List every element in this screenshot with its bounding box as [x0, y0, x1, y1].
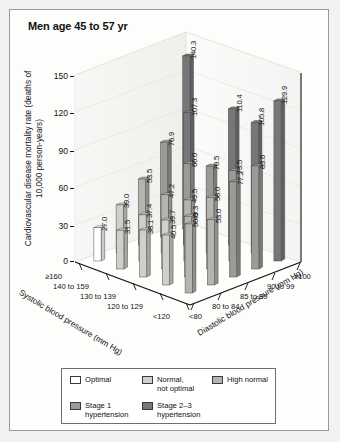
bar-side-face — [124, 228, 128, 269]
legend-item-stage1[interactable]: Stage 1hypertension — [70, 401, 142, 420]
legend-label-stage1: Stage 1hypertension — [85, 401, 128, 420]
legend-item-normal-not-optimal[interactable]: Normal,not optimal — [142, 375, 212, 394]
systolic-label-4: <120 — [153, 312, 170, 321]
bar[interactable] — [274, 99, 285, 261]
systolic-label-1: 140 to 159 — [53, 282, 89, 291]
y-tick-60: 60 — [42, 183, 68, 193]
bar-value-label: 110.4 — [235, 95, 244, 112]
systolic-label-3: 120 to 129 — [107, 302, 143, 311]
bar-value-label: 31.5 — [123, 220, 132, 234]
figure-panel: Men age 45 to 57 yr Cardiovascular disea… — [0, 0, 340, 442]
legend-label-normal-not-optimal: Normal,not optimal — [157, 375, 194, 394]
bar-value-label: 56.0 — [191, 213, 200, 227]
bar[interactable] — [117, 228, 128, 269]
bar-front-face — [207, 220, 214, 285]
bar-value-label: 38.1 — [146, 220, 155, 234]
bar-front-face — [162, 235, 169, 285]
legend-label-optimal: Optimal — [85, 375, 111, 384]
y-tickmark-30 — [70, 226, 74, 227]
bar-front-face — [140, 230, 147, 277]
y-tick-0: 0 — [42, 256, 68, 266]
bar-side-face — [192, 222, 196, 293]
bar[interactable] — [185, 222, 196, 293]
legend-swatch-normal-not-optimal — [142, 376, 153, 384]
bar-front-face — [274, 101, 281, 261]
bar-value-label: 47.2 — [167, 184, 176, 198]
bar-value-label: 53.0 — [214, 209, 223, 223]
legend-label-high-normal: High normal — [227, 375, 268, 384]
bar[interactable] — [207, 218, 218, 285]
bar-value-label: 39.0 — [122, 194, 131, 208]
bar-value-label: 66.0 — [190, 153, 199, 167]
bar-value-label: 140.3 — [189, 41, 198, 59]
bar-value-label: 27.0 — [100, 217, 109, 231]
bar-side-face — [147, 228, 151, 277]
bar-front-face — [117, 230, 124, 269]
y-tick-90: 90 — [42, 146, 68, 156]
bar-value-label: 107.3 — [190, 98, 199, 116]
bar-value-label: 105.8 — [257, 108, 266, 126]
bar-side-face — [215, 218, 219, 285]
legend-swatch-optimal — [70, 376, 81, 384]
bar-value-label: 76.9 — [167, 132, 176, 146]
bar[interactable] — [252, 164, 263, 269]
legend-item-optimal[interactable]: Optimal — [70, 375, 142, 384]
y-tickmark-0 — [70, 261, 74, 262]
bar[interactable] — [230, 180, 241, 277]
legend: Optimal Normal,not optimal High normal S… — [61, 368, 276, 424]
y-tickmark-90 — [70, 151, 74, 152]
y-tick-30: 30 — [42, 221, 68, 231]
systolic-label-0: ≥160 — [45, 272, 62, 281]
bar-value-label: 40.5 — [169, 225, 178, 239]
bar-value-label: 49.5 — [190, 189, 199, 203]
legend-item-high-normal[interactable]: High normal — [212, 375, 268, 384]
bar-value-label: 39.7 — [168, 210, 177, 224]
bar-value-label: 58.0 — [213, 187, 222, 201]
bar[interactable] — [140, 228, 151, 277]
bar-value-label: 77.2 — [236, 171, 245, 185]
bar-side-face — [170, 233, 174, 285]
bar-value-label: 37.4 — [145, 204, 154, 218]
legend-swatch-stage23 — [142, 402, 153, 410]
bar-value-label: 53.5 — [145, 169, 154, 183]
y-tick-120: 120 — [42, 108, 68, 118]
bar-value-label: 129.9 — [280, 86, 289, 104]
bar-side-face — [237, 180, 241, 277]
bar-front-face — [230, 182, 237, 277]
legend-label-stage23: Stage 2–3hypertension — [157, 401, 200, 420]
legend-row-2: Stage 1hypertension Stage 2–3hypertensio… — [70, 401, 268, 420]
y-tickmark-60 — [70, 188, 74, 189]
bar[interactable] — [162, 233, 173, 285]
legend-swatch-high-normal — [212, 376, 223, 384]
legend-item-stage23[interactable]: Stage 2–3hypertension — [142, 401, 200, 420]
legend-row-1: Optimal Normal,not optimal High normal — [70, 375, 268, 394]
bar-front-face — [94, 228, 101, 261]
bar-value-label: 83.6 — [258, 155, 267, 169]
bar-side-face — [101, 226, 105, 261]
bar-side-face — [259, 164, 263, 269]
bar[interactable] — [94, 226, 105, 261]
bar-value-label: 70.5 — [212, 156, 221, 170]
bar-front-face — [252, 166, 259, 269]
bar-front-face — [185, 224, 192, 293]
legend-swatch-stage1 — [70, 402, 81, 410]
diastolic-label-0: <80 — [189, 312, 202, 321]
y-tickmark-120 — [70, 113, 74, 114]
systolic-label-2: 130 to 139 — [80, 292, 116, 301]
bar-side-face — [281, 99, 285, 261]
y-tick-150: 150 — [42, 71, 68, 81]
y-tickmark-150 — [70, 76, 74, 77]
